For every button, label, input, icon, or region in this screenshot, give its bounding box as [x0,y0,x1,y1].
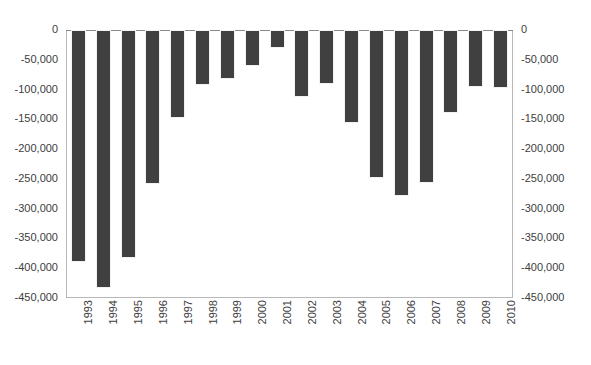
y-tick-right-8: -400,000 [521,262,564,273]
bar-1997 [170,30,185,118]
y-tick-right-3: -150,000 [521,113,564,124]
bar-2009 [468,30,483,87]
bar-2008 [443,30,458,113]
y-tick-left-3: -150,000 [15,113,58,124]
y-tick-right-4: -200,000 [521,143,564,154]
bar-2002 [294,30,309,97]
x-tick-2005: 2005 [381,300,392,324]
x-tick-2006: 2006 [406,300,417,324]
x-tick-2002: 2002 [307,300,318,324]
bar-2005 [369,30,384,178]
y-tick-right-0: 0 [521,24,527,35]
x-tick-1996: 1996 [158,300,169,324]
x-tick-1995: 1995 [133,300,144,324]
x-axis: 1993199419951996199719981999200020012002… [66,300,513,346]
x-tick-1999: 1999 [232,300,243,324]
x-tick-1993: 1993 [83,300,94,324]
x-tick-2001: 2001 [282,300,293,324]
y-tick-left-6: -300,000 [15,203,58,214]
y-tick-right-9: -450,000 [521,292,564,303]
y-tick-right-7: -350,000 [521,232,564,243]
y-tick-left-1: -50,000 [21,54,58,65]
x-tick-1997: 1997 [183,300,194,324]
bar-1996 [145,30,160,184]
bar-2006 [394,30,409,196]
y-tick-left-7: -350,000 [15,232,58,243]
bar-2010 [493,30,508,88]
bar-1993 [71,30,86,262]
bar-1998 [195,30,210,85]
x-tick-2000: 2000 [257,300,268,324]
y-tick-left-8: -400,000 [15,262,58,273]
bar-1995 [121,30,136,258]
bar-2001 [270,30,285,48]
x-tick-2010: 2010 [506,300,517,324]
bar-chart: 0-50,000-100,000-150,000-200,000-250,000… [0,0,591,365]
y-tick-right-1: -50,000 [521,54,558,65]
x-tick-2008: 2008 [456,300,467,324]
x-tick-2007: 2007 [431,300,442,324]
bar-2003 [319,30,334,84]
bar-2000 [245,30,260,66]
bar-2004 [344,30,359,123]
y-tick-left-2: -100,000 [15,84,58,95]
bars-layer [66,30,513,298]
bar-2007 [419,30,434,183]
x-tick-2004: 2004 [357,300,368,324]
x-tick-1994: 1994 [108,300,119,324]
y-tick-right-5: -250,000 [521,173,564,184]
y-tick-right-6: -300,000 [521,203,564,214]
x-tick-2003: 2003 [332,300,343,324]
x-tick-2009: 2009 [481,300,492,324]
bar-1994 [96,30,111,288]
y-tick-left-4: -200,000 [15,143,58,154]
y-tick-left-5: -250,000 [15,173,58,184]
y-tick-left-9: -450,000 [15,292,58,303]
y-tick-left-0: 0 [52,24,58,35]
x-tick-1998: 1998 [208,300,219,324]
y-tick-right-2: -100,000 [521,84,564,95]
bar-1999 [220,30,235,79]
